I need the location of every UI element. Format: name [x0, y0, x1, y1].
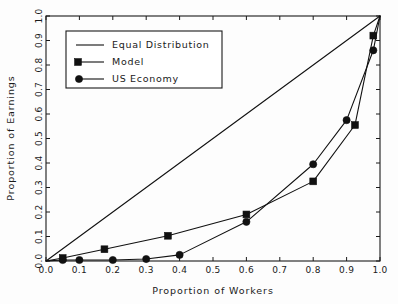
marker-circle — [76, 256, 83, 263]
x-tick-label: 1.0 — [372, 265, 387, 275]
y-tick-label: 0.5 — [34, 131, 44, 146]
x-tick-label: 0.3 — [139, 265, 154, 275]
marker-square — [165, 232, 172, 239]
x-tick-label: 0.1 — [72, 265, 87, 275]
y-tick-label: 0.3 — [34, 180, 44, 195]
y-tick-label: 0.1 — [34, 229, 44, 244]
legend-marker-square — [75, 59, 82, 66]
x-tick-label: 0.4 — [172, 265, 187, 275]
y-axis-title: Proportion of Earnings — [5, 75, 16, 200]
x-tick-label: 0.7 — [272, 265, 287, 275]
x-tick-label: 0.8 — [306, 265, 321, 275]
y-tick-label: 0.8 — [34, 57, 44, 72]
marker-circle — [370, 47, 377, 54]
y-tick-label: 0.7 — [34, 82, 44, 97]
marker-circle — [109, 256, 116, 263]
marker-circle — [143, 255, 150, 262]
x-axis-title: Proportion of Workers — [152, 285, 274, 296]
marker-circle — [59, 256, 66, 263]
x-tick-label: 0.2 — [105, 265, 120, 275]
legend-label-1: Model — [112, 56, 144, 67]
marker-square — [310, 178, 317, 185]
chart-legend: Equal DistributionModelUS Economy — [66, 31, 222, 88]
y-tick-label: 0.9 — [34, 33, 44, 48]
legend-label-0: Equal Distribution — [112, 39, 210, 50]
x-tick-label: 0.9 — [339, 265, 354, 275]
marker-square — [101, 246, 108, 253]
y-tick-label: 0.2 — [34, 204, 44, 219]
lorenz-curve-figure: 0.00.10.20.30.40.50.60.70.80.91.0 0.00.1… — [0, 0, 398, 304]
y-tick-label: 0.0 — [34, 253, 44, 268]
y-tick-label: 0.4 — [34, 155, 44, 170]
y-tick-label: 0.6 — [34, 106, 44, 121]
chart-canvas: 0.00.10.20.30.40.50.60.70.80.91.0 0.00.1… — [0, 0, 398, 304]
x-tick-label: 0.6 — [239, 265, 254, 275]
marker-square — [243, 211, 250, 218]
marker-circle — [343, 117, 350, 124]
marker-square — [352, 122, 359, 129]
marker-circle — [176, 251, 183, 258]
x-tick-label: 0.5 — [205, 265, 220, 275]
marker-circle — [243, 218, 250, 225]
marker-circle — [310, 161, 317, 168]
legend-label-2: US Economy — [112, 73, 179, 84]
y-tick-label: 1.0 — [34, 8, 44, 23]
legend-marker-circle — [75, 75, 82, 82]
